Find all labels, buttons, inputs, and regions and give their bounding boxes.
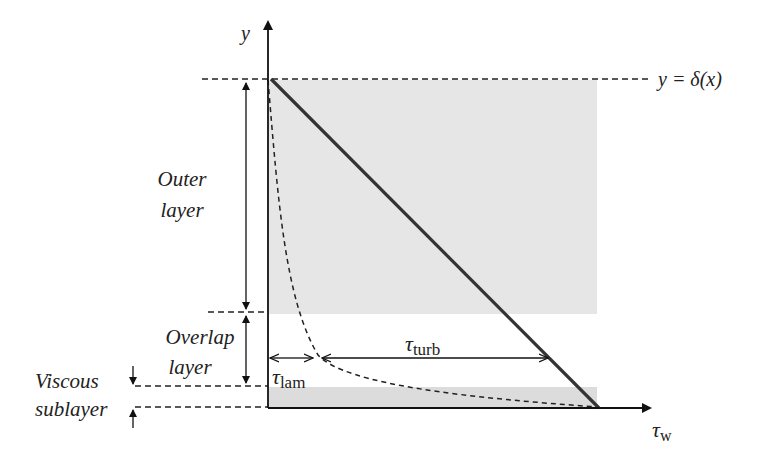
outer-layer-label-2: layer: [160, 198, 204, 222]
viscous-sublayer-label-1: Viscous: [35, 369, 99, 393]
boundary-layer-diagram: y y = δ(x) Outer layer Overlap layer Vis…: [0, 0, 761, 462]
viscous-sublayer-shading: [269, 387, 597, 407]
tau-turb-label: τturb: [405, 331, 440, 359]
viscous-sublayer-label-2: sublayer: [35, 397, 108, 421]
outer-layer-label-1: Outer: [158, 167, 208, 191]
y-axis-label: y: [239, 22, 250, 45]
edge-label: y = δ(x): [656, 68, 722, 91]
overlap-layer-label-2: layer: [168, 355, 212, 379]
overlap-layer-label-1: Overlap: [166, 325, 235, 349]
x-axis-label: τw: [652, 417, 672, 444]
outer-layer-shading: [269, 80, 597, 314]
tau-lam-label: τlam: [272, 364, 305, 392]
